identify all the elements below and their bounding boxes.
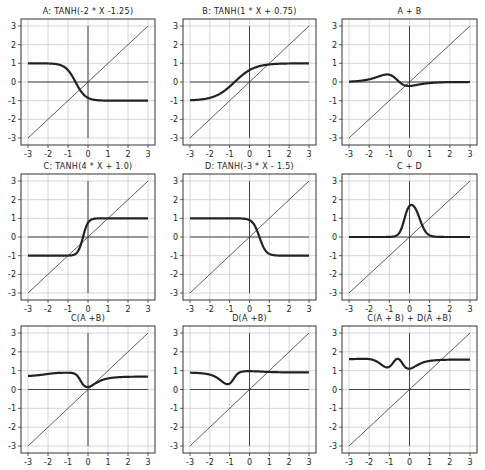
y-tick-label: -3	[329, 442, 337, 451]
x-tick-label: 3	[467, 150, 472, 159]
x-tick-label: -1	[385, 150, 393, 159]
y-tick-label: 2	[173, 41, 178, 50]
x-tick-label: -1	[64, 305, 72, 314]
y-tick-label: -2	[329, 270, 337, 279]
y-tick-label: -3	[329, 289, 337, 298]
y-tick-label: 2	[11, 348, 16, 357]
subplot-title: A + B	[397, 7, 421, 16]
y-tick-label: -3	[170, 289, 178, 298]
y-tick-label: 1	[173, 367, 178, 376]
y-tick-label: 0	[11, 386, 16, 395]
y-tick-label: 2	[332, 41, 337, 50]
x-tick-label: 1	[105, 458, 110, 467]
x-tick-label: -3	[24, 150, 32, 159]
x-tick-label: 0	[85, 150, 90, 159]
y-tick-label: 3	[173, 22, 178, 31]
y-tick-label: -2	[8, 423, 16, 432]
x-tick-label: -1	[385, 305, 393, 314]
x-tick-label: 0	[407, 458, 412, 467]
y-tick-label: 2	[332, 348, 337, 357]
x-tick-label: 0	[407, 305, 412, 314]
y-tick-label: 3	[332, 22, 337, 31]
x-tick-label: -2	[365, 150, 373, 159]
y-tick-label: -3	[170, 442, 178, 451]
y-tick-label: 2	[11, 196, 16, 205]
subplot-panel: 3210-1-2-3-3-2-10123C(A + B) + D(A +B)	[329, 314, 477, 467]
subplot-title: D(A +B)	[232, 314, 267, 323]
y-tick-label: 3	[11, 22, 16, 31]
y-tick-label: 0	[332, 233, 337, 242]
x-tick-label: 0	[85, 305, 90, 314]
subplot-title: C(A + B) + D(A +B)	[367, 314, 451, 323]
x-tick-label: -3	[24, 458, 32, 467]
x-tick-label: 3	[306, 305, 311, 314]
x-tick-label: 2	[447, 458, 452, 467]
figure: 3210-1-2-3-3-2-10123A: TANH(-2 * X -1.25…	[0, 0, 485, 470]
y-tick-label: 2	[11, 41, 16, 50]
y-tick-label: 1	[173, 214, 178, 223]
x-tick-label: 2	[287, 150, 292, 159]
y-tick-label: 0	[332, 386, 337, 395]
y-tick-label: 0	[11, 78, 16, 87]
y-tick-label: 1	[173, 59, 178, 68]
y-tick-label: 1	[332, 59, 337, 68]
x-tick-label: -3	[345, 305, 353, 314]
x-tick-label: 3	[145, 305, 150, 314]
y-tick-label: -1	[329, 404, 337, 413]
x-tick-label: -2	[206, 305, 214, 314]
y-tick-label: 3	[11, 329, 16, 338]
y-tick-label: -3	[8, 289, 16, 298]
x-tick-label: -2	[206, 150, 214, 159]
y-tick-label: 1	[332, 214, 337, 223]
x-tick-label: 2	[125, 305, 130, 314]
x-tick-label: 1	[427, 458, 432, 467]
y-tick-label: 2	[173, 196, 178, 205]
y-tick-label: -2	[170, 270, 178, 279]
x-tick-label: -1	[226, 458, 234, 467]
x-tick-label: 3	[145, 458, 150, 467]
subplot-title: C(A +B)	[71, 314, 105, 323]
subplot-panel: 3210-1-2-3-3-2-10123D(A +B)	[170, 314, 316, 467]
y-tick-label: 2	[332, 196, 337, 205]
subplot-panel: 3210-1-2-3-3-2-10123C + D	[329, 162, 477, 314]
y-tick-label: -3	[8, 442, 16, 451]
y-tick-label: 0	[11, 233, 16, 242]
x-tick-label: -2	[365, 458, 373, 467]
subplot-panel: 3210-1-2-3-3-2-10123D: TANH(-3 * X - 1.5…	[170, 162, 316, 314]
y-tick-label: 3	[173, 329, 178, 338]
x-tick-label: 3	[306, 458, 311, 467]
y-tick-label: -3	[170, 134, 178, 143]
x-tick-label: -1	[226, 150, 234, 159]
x-tick-label: 0	[407, 150, 412, 159]
x-tick-label: 1	[105, 305, 110, 314]
subplot-panel: 3210-1-2-3-3-2-10123A + B	[329, 7, 477, 159]
y-tick-label: 1	[332, 367, 337, 376]
y-tick-label: 1	[11, 214, 16, 223]
subplot-panel: 3210-1-2-3-3-2-10123A: TANH(-2 * X -1.25…	[8, 7, 155, 159]
subplot-panel: 3210-1-2-3-3-2-10123C(A +B)	[8, 314, 155, 467]
y-tick-label: -1	[8, 252, 16, 261]
subplot-panel: 3210-1-2-3-3-2-10123C: TANH(4 * X + 1.0)	[8, 162, 155, 314]
x-tick-label: 1	[427, 305, 432, 314]
x-tick-label: 2	[287, 458, 292, 467]
x-tick-label: -1	[64, 458, 72, 467]
x-tick-label: -2	[44, 150, 52, 159]
y-tick-label: 3	[332, 177, 337, 186]
y-tick-label: -2	[170, 115, 178, 124]
y-tick-label: -1	[329, 252, 337, 261]
x-tick-label: 1	[427, 150, 432, 159]
y-tick-label: -2	[329, 115, 337, 124]
y-tick-label: 3	[173, 177, 178, 186]
x-tick-label: -3	[345, 458, 353, 467]
y-tick-label: 3	[11, 177, 16, 186]
x-tick-label: -3	[186, 305, 194, 314]
x-tick-label: 3	[145, 150, 150, 159]
x-tick-label: 1	[267, 150, 272, 159]
y-tick-label: -3	[329, 134, 337, 143]
x-tick-label: -2	[365, 305, 373, 314]
y-tick-label: 0	[173, 386, 178, 395]
y-tick-label: -2	[170, 423, 178, 432]
x-tick-label: -3	[186, 150, 194, 159]
x-tick-label: 2	[447, 150, 452, 159]
y-tick-label: -2	[8, 115, 16, 124]
